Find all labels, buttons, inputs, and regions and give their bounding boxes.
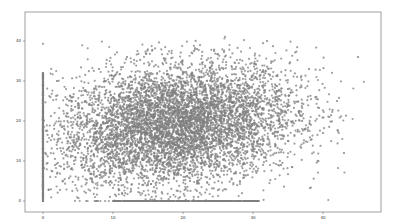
y-axis: 0 10 20 30 40 <box>16 38 25 203</box>
scatter-chart: 0 10 20 30 40 0 10 20 30 40 <box>0 0 400 224</box>
x-tick-label: 10 <box>110 215 116 220</box>
x-axis: 0 10 20 30 40 <box>42 212 326 220</box>
scatter-points <box>42 36 365 202</box>
x-tick-label: 30 <box>250 215 256 220</box>
x-tick-label: 0 <box>42 215 45 220</box>
y-tick-label: 40 <box>16 38 22 43</box>
y-tick-label: 0 <box>18 198 21 203</box>
x-tick-label: 20 <box>180 215 186 220</box>
y-tick-label: 20 <box>16 118 22 123</box>
y-tick-label: 30 <box>16 78 22 83</box>
y-tick-label: 10 <box>16 158 22 163</box>
x-tick-label: 40 <box>320 215 326 220</box>
